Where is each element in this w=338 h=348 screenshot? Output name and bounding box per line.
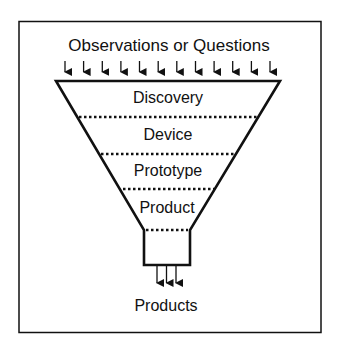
stage-label-device: Device: [144, 126, 193, 144]
input-arrows: [65, 61, 270, 72]
output-label: Products: [134, 297, 197, 315]
stage-label-product: Product: [139, 199, 194, 217]
stage-label-discovery: Discovery: [133, 89, 203, 107]
input-label: Observations or Questions: [68, 36, 269, 56]
output-arrows: [157, 266, 176, 283]
stage-label-prototype: Prototype: [134, 162, 202, 180]
